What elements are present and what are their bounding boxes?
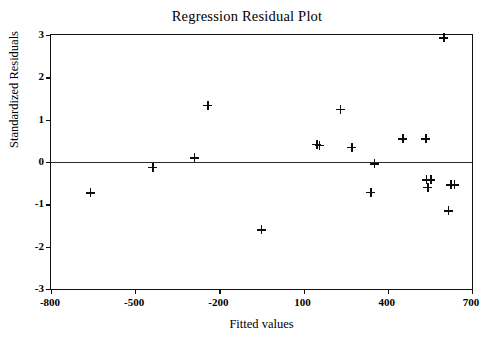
plot-canvas [51,35,472,289]
data-point-marker [422,175,431,184]
x-axis-label: Fitted values [50,317,473,332]
data-point-marker [426,175,435,184]
data-point-marker [421,134,430,143]
plot-frame [50,34,473,290]
x-axis-tick [51,289,52,294]
x-axis-tick-label: -500 [124,296,144,308]
data-point-marker [446,180,455,189]
x-axis-tick-label: -800 [40,296,60,308]
data-point-marker [450,180,459,189]
x-axis-tick-label: 700 [463,296,480,308]
data-point-marker [190,153,199,162]
y-axis-tick-label: 3 [39,28,45,40]
x-axis-tick [219,289,220,294]
y-axis-tick [46,247,51,248]
y-axis-tick [46,289,51,290]
data-point-marker [86,188,95,197]
data-point-marker [203,101,212,110]
data-point-marker [439,33,448,42]
y-axis-tick-label: -2 [35,240,44,252]
chart-title: Regression Residual Plot [0,8,494,25]
y-axis-tick [46,77,51,78]
data-point-marker [347,143,356,152]
y-axis-tick-label: 2 [39,70,45,82]
x-axis-tick [304,289,305,294]
data-point-marker [366,188,375,197]
zero-reference-line [51,162,472,163]
x-axis-tick [135,289,136,294]
data-point-marker [370,159,379,168]
data-point-marker [312,140,321,149]
x-axis-tick-label: 400 [379,296,396,308]
data-point-marker [398,134,407,143]
figure-container: Regression Residual Plot -800-500-200100… [0,0,494,354]
y-axis-tick [46,162,51,163]
data-point-marker [148,163,157,172]
data-point-marker [423,183,432,192]
y-axis-label: Standardized Residuals [7,0,22,190]
x-axis-tick [472,289,473,294]
y-axis-tick-label: 1 [39,113,45,125]
x-axis-tick-label: -200 [208,296,228,308]
data-point-marker [336,105,345,114]
data-point-marker [315,141,324,150]
x-axis-tick-label: 100 [294,296,311,308]
y-axis-tick [46,204,51,205]
data-point-marker [257,225,266,234]
data-point-marker [444,206,453,215]
y-axis-tick [46,120,51,121]
y-axis-tick-label: 0 [39,155,45,167]
y-axis-tick [46,35,51,36]
x-axis-tick [388,289,389,294]
y-axis-tick-label: -1 [35,197,44,209]
y-axis-tick-label: -3 [35,282,44,294]
